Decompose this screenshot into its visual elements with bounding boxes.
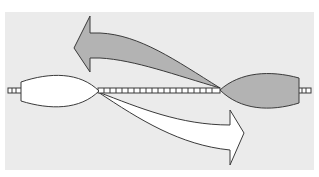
right-lens-gray xyxy=(220,74,299,109)
dna-stub-right xyxy=(298,88,311,93)
dna-stub-left xyxy=(8,88,22,93)
left-lens-white xyxy=(21,75,99,106)
dna-diagram xyxy=(0,0,319,177)
gray-arrow-left xyxy=(74,16,220,88)
white-arrow-right xyxy=(98,92,244,165)
dna-ladder xyxy=(98,88,220,93)
